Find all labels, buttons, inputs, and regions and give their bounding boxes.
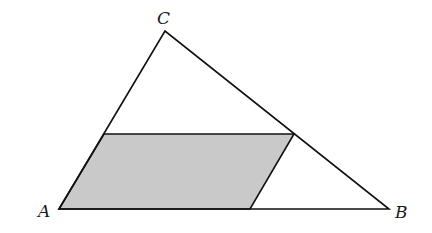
- triangle-diagram-svg: A B C: [0, 0, 432, 233]
- vertex-label-c: C: [157, 8, 170, 28]
- geometry-diagram: A B C: [0, 0, 432, 233]
- vertex-label-a: A: [36, 201, 50, 221]
- vertex-label-b: B: [394, 202, 408, 222]
- shaded-parallelogram: [59, 134, 294, 209]
